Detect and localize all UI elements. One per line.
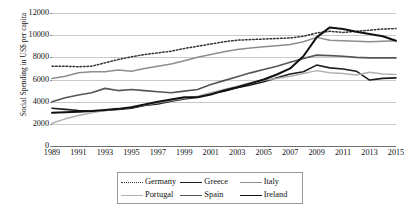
x-tick-label: 2007 [282,149,298,157]
x-tick-label: 1993 [97,149,113,157]
legend-row: GermanyGreeceItaly [121,175,299,188]
y-tick-label: 2000 [1,120,49,128]
series-line-spain [52,55,396,102]
legend-label: Ireland [264,190,288,199]
legend-label: Germany [145,177,176,186]
plot-area [52,13,396,146]
legend-swatch-ireland-icon [240,190,262,199]
series-line-germany [52,29,396,67]
legend-label: Portugal [145,190,173,199]
y-tick-label: 6000 [1,76,49,84]
line-chart: Social Spending in US$ per capita 020004… [0,0,410,214]
legend-swatch-italy-icon [240,177,262,186]
x-tick-label: 2009 [308,149,324,157]
x-tick-label: 1999 [176,149,192,157]
legend-row: PortugalSpainIreland [121,188,299,201]
legend-swatch-portugal-icon [121,190,143,199]
x-tick-label: 2001 [203,149,219,157]
series-line-italy [52,37,396,78]
series-line-portugal [52,71,396,124]
y-tick-label: 10000 [1,31,49,39]
legend-item-portugal[interactable]: Portugal [121,190,180,199]
x-tick-label: 2015 [388,149,404,157]
legend-item-greece[interactable]: Greece [180,177,239,186]
y-tick-label: 4000 [1,98,49,106]
legend-item-germany[interactable]: Germany [121,177,180,186]
legend-swatch-greece-icon [180,177,202,186]
legend-label: Spain [204,190,223,199]
chart-legend: GermanyGreeceItaly PortugalSpainIreland [117,172,303,204]
y-tick-label: 0 [1,142,49,150]
x-tick-label: 1989 [44,149,60,157]
legend-label: Greece [204,177,228,186]
x-axis-line [52,146,396,147]
x-tick-label: 2005 [256,149,272,157]
x-tick-label: 2013 [361,149,377,157]
y-axis-tick-labels: 020004000600080001000012000 [0,13,49,146]
legend-item-spain[interactable]: Spain [180,190,239,199]
y-tick-label: 8000 [1,53,49,61]
x-tick-label: 1991 [70,149,86,157]
legend-item-ireland[interactable]: Ireland [240,190,299,199]
series-lines [52,13,396,146]
x-tick-label: 2003 [229,149,245,157]
x-tick-label: 1995 [123,149,139,157]
y-tick-label: 12000 [1,9,49,17]
x-tick-label: 1997 [150,149,166,157]
legend-item-italy[interactable]: Italy [240,177,299,186]
legend-swatch-germany-icon [121,177,143,186]
legend-swatch-spain-icon [180,190,202,199]
x-tick-label: 2011 [335,149,351,157]
legend-label: Italy [264,177,279,186]
x-axis-tick-labels: 1989199119931995199719992001200320052007… [52,149,396,165]
